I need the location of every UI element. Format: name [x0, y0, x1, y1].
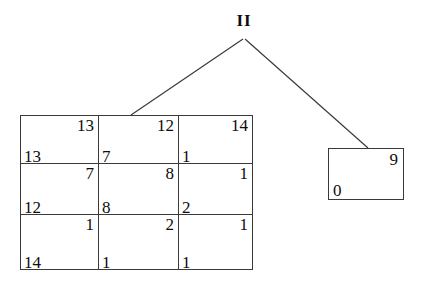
cell-value-top-right: 14 — [231, 116, 248, 137]
cell-value-bottom-left: 2 — [182, 197, 191, 215]
cell-value-top-right: 1 — [240, 215, 249, 236]
cell-value-bottom-left: 0 — [333, 180, 342, 202]
matrix-cell-1-2: 1 2 — [179, 164, 252, 215]
matrix-cell-2-2: 1 1 — [179, 215, 252, 269]
cell-value-top-right: 2 — [166, 215, 175, 236]
matrix-cell-0-0: 13 13 — [21, 116, 99, 164]
matrix-cell-2-0: 1 14 — [21, 215, 99, 269]
matrix-node[interactable]: 13 13 12 7 14 1 7 12 8 8 1 2 1 14 2 1 — [20, 115, 253, 270]
cell-value-bottom-left: 12 — [24, 197, 41, 215]
matrix-cell-0-1: 12 7 — [99, 116, 179, 164]
matrix-cell-1-1: 8 8 — [99, 164, 179, 215]
matrix-cell-1-0: 7 12 — [21, 164, 99, 215]
edge-root-to-leaf — [245, 39, 368, 148]
matrix-cell-2-1: 2 1 — [99, 215, 179, 269]
cell-value-top-right: 8 — [166, 164, 175, 185]
matrix-cell-0-2: 14 1 — [179, 116, 252, 164]
cell-value-bottom-left: 13 — [24, 146, 41, 164]
cell-value-top-right: 12 — [157, 116, 174, 137]
cell-value-bottom-left: 14 — [24, 252, 41, 269]
leaf-node[interactable]: 9 0 — [328, 148, 404, 200]
cell-value-top-right: 13 — [77, 116, 94, 137]
edge-root-to-matrix — [131, 39, 243, 115]
cell-value-bottom-left: 8 — [102, 197, 111, 215]
cell-value-top-right: 1 — [86, 215, 95, 236]
cell-value-top-right: 9 — [390, 149, 399, 171]
cell-value-top-right: 1 — [240, 164, 249, 185]
root-node-label: II — [231, 11, 257, 31]
cell-value-bottom-left: 1 — [182, 252, 191, 269]
cell-value-bottom-left: 1 — [102, 252, 111, 269]
diagram-canvas: II 13 13 12 7 14 1 7 12 8 8 1 2 1 14 — [0, 0, 423, 288]
cell-value-top-right: 7 — [86, 164, 95, 185]
cell-value-bottom-left: 1 — [182, 146, 191, 164]
cell-value-bottom-left: 7 — [102, 146, 111, 164]
